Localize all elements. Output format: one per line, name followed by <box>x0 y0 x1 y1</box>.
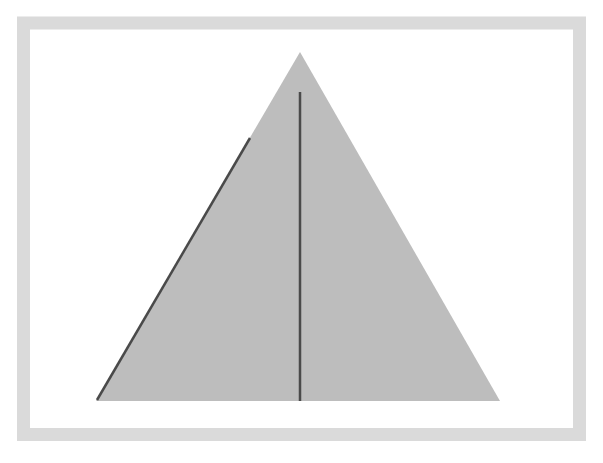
diagram-canvas <box>0 0 603 463</box>
triangle <box>96 52 500 401</box>
